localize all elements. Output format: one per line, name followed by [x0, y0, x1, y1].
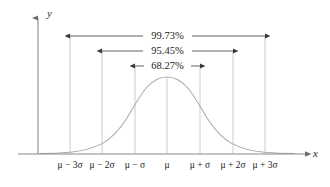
tick-label-plus-3-sigma: μ + 3σ — [252, 160, 277, 170]
x-axis-label: x — [312, 147, 318, 159]
tick-label-minus-3-sigma: μ − 3σ — [57, 160, 82, 170]
span-99-73-label: 99.73% — [151, 30, 184, 41]
span-68-27-label: 68.27% — [151, 60, 184, 71]
span-68-27: 68.27% — [135, 60, 200, 71]
x-axis-tick-labels: μ − 3σ μ − 2σ μ − σ μ μ + σ μ + 2σ μ + 3… — [57, 160, 277, 170]
tick-label-plus-1-sigma: μ + σ — [190, 160, 210, 170]
span-95-45: 95.45% — [102, 45, 233, 56]
span-99-73: 99.73% — [70, 30, 265, 41]
tick-label-mu: μ — [164, 160, 169, 170]
tick-label-minus-2-sigma: μ − 2σ — [89, 160, 114, 170]
span-95-45-label: 95.45% — [151, 45, 184, 56]
tick-label-plus-2-sigma: μ + 2σ — [220, 160, 245, 170]
normal-distribution-figure: y x 99.73% 95.45% 68.27% μ − 3σ μ − 2σ μ… — [0, 0, 330, 187]
y-axis-label: y — [46, 7, 52, 19]
tick-label-minus-1-sigma: μ − σ — [125, 160, 145, 170]
